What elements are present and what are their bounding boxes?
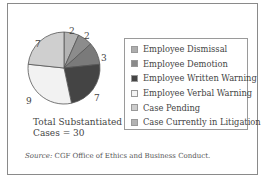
legend-swatch <box>131 60 138 67</box>
slice-label-litigation: 3 <box>101 53 107 63</box>
source-note: Source: CGF Office of Ethics and Busines… <box>25 152 210 160</box>
slice-label-dismissal: 2 <box>69 26 75 36</box>
legend-swatch <box>131 119 138 126</box>
legend-swatch <box>131 104 138 111</box>
source-text: CGF Office of Ethics and Business Conduc… <box>52 152 210 160</box>
slice-label-pending: 7 <box>35 39 41 49</box>
slice-label-demotion: 2 <box>84 31 90 41</box>
legend-label: Case Currently in Litigation <box>143 117 261 127</box>
legend-label: Employee Verbal Warning <box>143 88 252 98</box>
legend-swatch <box>131 46 138 53</box>
legend-item-written-warning: Employee Written Warning <box>131 71 247 86</box>
slice-label-verbal: 9 <box>26 96 32 106</box>
pie-slice <box>28 32 64 68</box>
legend-item-case-pending: Case Pending <box>131 100 247 115</box>
legend: Employee Dismissal Employee Demotion Emp… <box>124 38 248 130</box>
slice-label-written: 7 <box>94 93 100 103</box>
total-line-1: Total Substantiated <box>33 117 122 128</box>
legend-item-demotion: Employee Demotion <box>131 57 247 72</box>
legend-item-verbal-warning: Employee Verbal Warning <box>131 86 247 101</box>
legend-item-dismissal: Employee Dismissal <box>131 42 247 57</box>
legend-label: Employee Dismissal <box>143 44 227 54</box>
legend-label: Employee Demotion <box>143 59 228 69</box>
total-cases-label: Total Substantiated Cases = 30 <box>33 117 122 139</box>
legend-label: Employee Written Warning <box>143 73 257 83</box>
total-line-2: Cases = 30 <box>33 128 122 139</box>
legend-swatch <box>131 75 138 82</box>
source-label: Source: <box>25 152 52 160</box>
legend-swatch <box>131 90 138 97</box>
legend-item-litigation: Case Currently in Litigation <box>131 115 247 130</box>
legend-label: Case Pending <box>143 103 200 113</box>
